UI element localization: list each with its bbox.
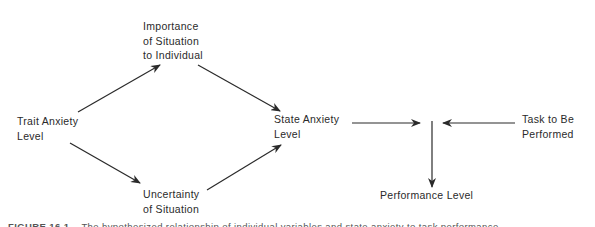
node-label-line: of Situation xyxy=(143,34,203,49)
node-uncertainty-of-situation: Uncertainty of Situation xyxy=(143,187,199,216)
node-importance-of-situation: Importance of Situation to Individual xyxy=(143,19,203,63)
node-label-line: Trait Anxiety xyxy=(17,114,78,129)
arrow-trait-to-uncertainty xyxy=(70,143,140,183)
node-label-line: Uncertainty xyxy=(143,187,199,202)
node-task-to-be-performed: Task to Be Performed xyxy=(522,112,574,141)
node-state-anxiety-level: State Anxiety Level xyxy=(274,112,339,141)
node-label-line: Performed xyxy=(522,127,574,142)
figure-label: FIGURE 16.1 xyxy=(8,221,69,227)
arrow-trait-to-importance xyxy=(78,65,160,112)
figure-caption: FIGURE 16.1The hypothesized relationship… xyxy=(8,221,499,227)
node-label-line: Task to Be xyxy=(522,112,574,127)
node-performance-level: Performance Level xyxy=(380,188,473,203)
node-label-line: Performance Level xyxy=(380,188,473,203)
arrow-importance-to-state xyxy=(198,65,280,111)
node-label-line: Importance xyxy=(143,19,203,34)
node-label-line: of Situation xyxy=(143,202,199,217)
arrow-uncertainty-to-state xyxy=(207,145,281,190)
node-label-line: to Individual xyxy=(143,48,203,63)
node-label-line: Level xyxy=(17,129,78,144)
node-label-line: State Anxiety xyxy=(274,112,339,127)
node-label-line: Level xyxy=(274,127,339,142)
node-trait-anxiety-level: Trait Anxiety Level xyxy=(17,114,78,143)
figure-caption-text: The hypothesized relationship of individ… xyxy=(81,221,498,227)
